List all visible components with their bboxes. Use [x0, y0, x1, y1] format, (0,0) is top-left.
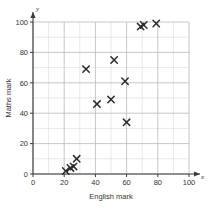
y-tick-label: 80 [20, 48, 28, 57]
x-tick-label: 0 [31, 178, 35, 187]
x-axis-title: English mark [89, 192, 133, 201]
x-tick-label: 40 [91, 178, 99, 187]
axes [30, 12, 200, 177]
tick-marks [30, 22, 189, 177]
data-point [94, 101, 100, 107]
x-tick-label: 80 [154, 178, 162, 187]
data-point [83, 66, 89, 72]
y-tick-label: 0 [24, 170, 28, 179]
y-axis-title: Maths mark [4, 78, 13, 117]
y-tick-label: 60 [20, 79, 28, 88]
tick-labels: 020406080100020406080100 [15, 18, 195, 187]
chart-canvas: 020406080100020406080100 x y English mar… [0, 0, 208, 215]
data-point [122, 78, 128, 84]
y-tick-label: 20 [20, 139, 28, 148]
data-point [111, 57, 117, 63]
x-tick-label: 100 [183, 178, 196, 187]
x-axis-letter: x [200, 173, 205, 181]
scatter-chart: 020406080100020406080100 x y English mar… [0, 0, 208, 215]
y-tick-label: 40 [20, 109, 28, 118]
grid-minor [33, 22, 189, 174]
x-tick-label: 60 [122, 178, 130, 187]
y-tick-label: 100 [15, 18, 28, 27]
y-axis-letter: y [35, 5, 40, 13]
x-tick-label: 20 [60, 178, 68, 187]
data-point [153, 20, 159, 26]
